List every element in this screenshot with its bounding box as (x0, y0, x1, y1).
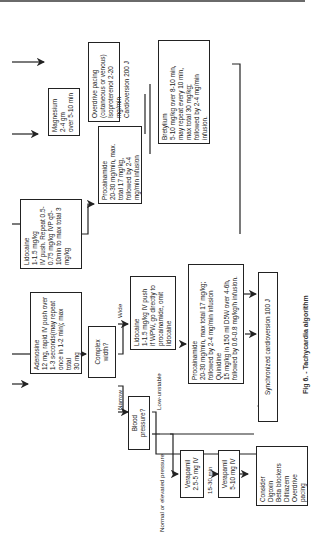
node-blood-pressure: Blood pressure? (128, 396, 150, 450)
node-lidocaine-wide: Lidocaine 1-1.5 mg/kg IV push if WPW, go… (130, 276, 176, 350)
node-procainamide-refractory: Procainamide 20-30 mg/min, max. total 17… (98, 126, 142, 204)
node-magnesium: Magnesium 2-4 gm over 5-10 min (48, 88, 80, 136)
node-complex-width: Complex width? (88, 326, 116, 378)
tachycardia-algorithm-diagram: Magnesium 2-4 gm over 5-10 min Overdrive… (0, 0, 321, 534)
node-consider-options: Consider Digoxin Beta blockers Diltiazem… (256, 446, 308, 506)
label-normal-elevated: Normal or elevated pressure (158, 454, 165, 532)
figure-caption: Fig 6. - Tachycardia algorithm (302, 295, 309, 394)
label-interval: 15-30 min (206, 466, 213, 494)
node-bretylium: Bretylium 5-10 mg/kg over 8-10 min, may … (158, 40, 210, 144)
node-lidocaine-refractory: Lidocaine 1-1.5 mg/kg IV push. Repeat 0.… (20, 199, 82, 269)
node-adenosine: Adenosine 12 mg, rapid IV push over 1-3 … (30, 292, 82, 374)
node-verapamil-first: Verapamil 2.5-5 mg IV (180, 450, 204, 498)
node-overdrive-pacing: Overdrive pacing (cutaneous or venous) I… (88, 42, 120, 122)
node-synchronized-cardioversion: Synchronized cardioversion 100 J (258, 272, 278, 422)
label-wide: Wide (116, 304, 123, 318)
label-narrow: Narrow (116, 390, 123, 410)
node-verapamil-second: Verapamil 5-10 mg IV (218, 450, 240, 498)
label-low-unstable: Low-unstable (155, 373, 162, 410)
node-procainamide-quinidine: Procainamide 20-30 mg/min, max total 17 … (188, 264, 244, 384)
